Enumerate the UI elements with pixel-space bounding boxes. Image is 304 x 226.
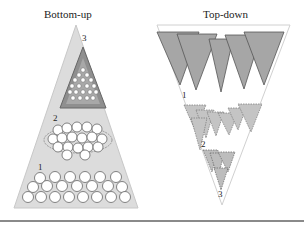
top-down-level-1-label: 1	[182, 90, 187, 100]
top-down-level-2-label: 2	[201, 139, 206, 149]
bottom-rule	[0, 220, 304, 222]
level-1-triangles	[157, 32, 284, 92]
diagram-canvas	[0, 0, 304, 226]
diagram-figure: Bottom-up Top-down 3 2 1 1 2 3	[0, 0, 304, 226]
top-down-pyramid	[157, 25, 290, 205]
top-down-title: Top-down	[203, 8, 248, 20]
bottom-up-title: Bottom-up	[44, 8, 92, 20]
bottom-up-level-3-label: 3	[82, 33, 87, 43]
top-down-level-3-label: 3	[218, 189, 223, 199]
bottom-up-level-2-label: 2	[53, 113, 58, 123]
bottom-up-level-1-label: 1	[38, 162, 43, 172]
bottom-up-pyramid	[14, 25, 138, 208]
